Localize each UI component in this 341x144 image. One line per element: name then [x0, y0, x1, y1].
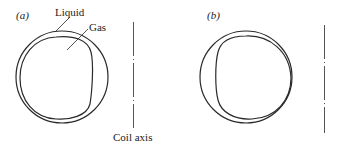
panel-a-gas-label: Gas: [89, 21, 106, 33]
two-phase-flow-diagram: (a) Liquid Gas Coil axis (b): [0, 0, 341, 144]
panel-b: (b): [200, 9, 325, 133]
panel-a-pipe-wall: [16, 31, 108, 123]
panel-a-label: (a): [16, 9, 29, 22]
panel-b-gas-core: [216, 36, 291, 119]
panel-b-label: (b): [207, 9, 220, 22]
panel-a-coil-axis-label: Coil axis: [113, 131, 152, 143]
panel-a: (a) Liquid Gas Coil axis: [16, 6, 152, 143]
panel-a-gas-core: [20, 37, 93, 120]
panel-a-liquid-label: Liquid: [55, 6, 85, 18]
panel-a-liquid-leader: [55, 17, 70, 32]
